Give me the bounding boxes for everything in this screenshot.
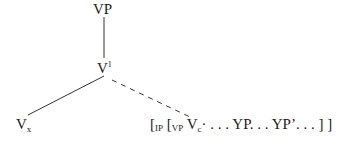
vc-base: V: [187, 116, 198, 132]
bracket-rest: · . . . YP. . . YP’. . . ] ]: [202, 116, 333, 132]
vbar-base: V: [97, 60, 108, 76]
vx-base: V: [16, 116, 27, 132]
vbar-superscript: 1: [108, 60, 112, 69]
node-vbar: V1: [97, 61, 112, 76]
node-vp: VP: [93, 2, 112, 17]
node-ip-bracket: [IP [VP Vc· . . . YP. . . YP’. . . ] ]: [150, 117, 332, 134]
vx-subscript: x: [27, 124, 32, 134]
edge-vbar-vx: [28, 76, 104, 115]
node-vx: Vx: [16, 117, 31, 134]
ip-label: IP: [155, 123, 163, 133]
vp-label: VP: [172, 123, 184, 133]
edge-vbar-ip-dashed: [112, 80, 190, 117]
